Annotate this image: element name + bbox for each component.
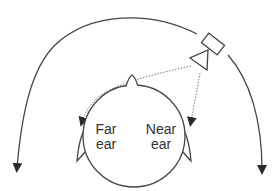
nose-icon xyxy=(126,75,138,86)
far-label-line1: Far xyxy=(92,122,120,137)
far-ear-label: Far ear xyxy=(92,122,120,152)
outer-arc-right xyxy=(228,55,262,170)
far-label-line2: ear xyxy=(92,137,120,152)
near-label-line2: ear xyxy=(142,137,180,152)
loudspeaker-icon xyxy=(190,33,225,70)
direct-path-to-near-ear xyxy=(191,73,200,122)
near-label-line1: Near xyxy=(142,122,180,137)
binaural-diagram xyxy=(0,0,274,191)
near-ear-label: Near ear xyxy=(142,122,180,152)
